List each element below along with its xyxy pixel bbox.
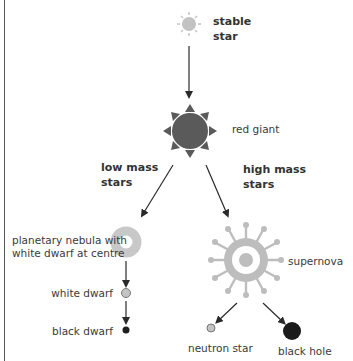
black-hole-icon [283,322,301,340]
planetary-nebula-label: planetary nebula with white dwarf at cen… [12,234,127,260]
planetary-nebula-label-line2: white dwarf at centre [12,247,127,260]
black-dwarf-label: black dwarf [52,325,113,338]
stable-star-label-line1: stable [213,14,251,29]
supernova-label: supernova [288,255,343,268]
high-mass-label-line1: high mass [243,162,306,177]
stable-star-label: stable star [213,14,251,44]
black-dwarf-icon [123,327,130,334]
red-giant-label: red giant [232,123,279,136]
white-dwarf-label: white dwarf [51,287,113,300]
low-mass-label-line1: low mass [101,160,158,175]
high-mass-label-line2: stars [243,177,306,192]
supernova-icon [208,222,284,298]
arrow-supernova-to-neutron-star [218,303,237,321]
stable-star-icon [177,12,201,36]
neutron-star-label: neutron star [188,342,253,355]
low-mass-stars-label: low mass stars [101,160,158,190]
stable-star-label-line2: star [213,29,251,44]
white-dwarf-icon [122,289,131,298]
neutron-star-icon [207,324,215,332]
high-mass-stars-label: high mass stars [243,162,306,192]
red-giant-icon [163,104,217,158]
star-life-cycle-diagram: stable star red giant low mass stars hig… [0,0,353,361]
low-mass-label-line2: stars [101,175,158,190]
black-hole-label: black hole [278,345,332,358]
planetary-nebula-label-line1: planetary nebula with [12,234,127,247]
arrow-supernova-to-black-hole [263,303,283,322]
arrow-high-mass [206,165,227,214]
